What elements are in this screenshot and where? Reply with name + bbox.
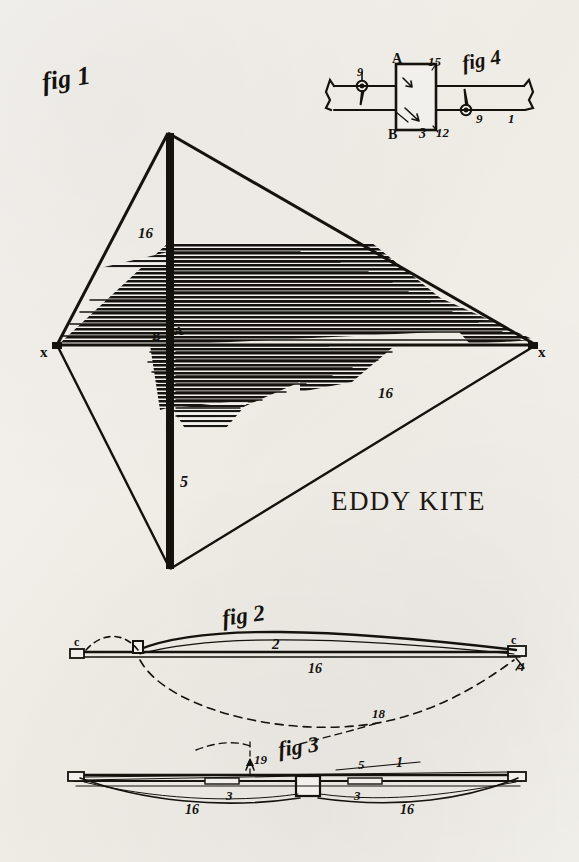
fig1-label-A: A bbox=[174, 324, 183, 337]
fig2-label-2: 2 bbox=[272, 637, 280, 652]
fig1-label-16-lower: 16 bbox=[378, 386, 393, 401]
fig4-label-B: B bbox=[388, 128, 397, 142]
fig4-label-9-right: 9 bbox=[476, 112, 483, 125]
fig4-label-12: 12 bbox=[436, 126, 449, 139]
fig3-label-3-left: 3 bbox=[226, 789, 233, 802]
fig1-label-B: B bbox=[152, 329, 161, 342]
fig2-label-4: 4 bbox=[518, 660, 525, 673]
fig3-label-1: 1 bbox=[396, 756, 403, 770]
patent-drawing-sheet: fig 1 16 B A x x 16 5 EDDY KITE fig 2 c … bbox=[0, 0, 579, 862]
fig1-label-x-right: x bbox=[538, 345, 546, 360]
fig3-label-16-left: 16 bbox=[185, 803, 199, 817]
fig4-label-15: 15 bbox=[428, 55, 441, 68]
fig1-edge-lower-left bbox=[57, 345, 170, 569]
fig4-label-A: A bbox=[392, 52, 402, 66]
fig2-label-18: 18 bbox=[372, 707, 385, 720]
fig3-label-3-right: 3 bbox=[354, 789, 361, 802]
fig3-caption: fig 3 bbox=[277, 733, 321, 760]
fig3-label-16-right: 16 bbox=[400, 803, 414, 817]
fig4-label-9-left: 9 bbox=[357, 66, 363, 78]
fig2-caption: fig 2 bbox=[221, 601, 267, 630]
fig1-label-5: 5 bbox=[180, 474, 188, 490]
fig1-label-16-top: 16 bbox=[138, 226, 153, 241]
fig4-label-3: 3 bbox=[419, 127, 426, 141]
fig4-label-1: 1 bbox=[508, 112, 515, 125]
drawing-canvas bbox=[0, 0, 579, 862]
fig1-left-tip bbox=[52, 342, 62, 349]
fig2-group bbox=[70, 632, 526, 727]
page-title: EDDY KITE bbox=[331, 486, 486, 517]
fig3-label-5: 5 bbox=[358, 758, 365, 771]
fig1-spine bbox=[166, 133, 174, 569]
fig2-label-c-left: c bbox=[74, 636, 79, 648]
fig1-label-x-left: x bbox=[40, 345, 48, 360]
fig2-label-16: 16 bbox=[308, 662, 322, 676]
fig2-label-c-right: c bbox=[511, 634, 516, 646]
fig3-label-19: 19 bbox=[254, 753, 267, 766]
fig1-right-tip bbox=[528, 342, 538, 349]
